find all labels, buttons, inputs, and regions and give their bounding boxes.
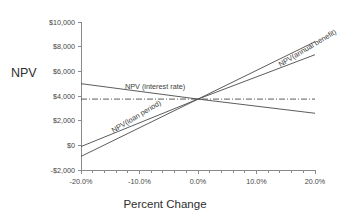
x-axis-tick-label: -20.0% (58, 177, 104, 186)
y-axis-tick-label: -$2,000 (20, 166, 75, 175)
series-line-2 (81, 84, 315, 114)
y-axis-tick-label: $8,000 (20, 42, 75, 51)
series-annotation-label: NPV (interest rate) (125, 82, 185, 91)
y-axis-tick-label: $4,000 (20, 92, 75, 101)
x-axis-tick-label: 0.0% (175, 177, 221, 186)
x-axis-tick-label: -10.0% (117, 177, 163, 186)
y-axis-title: NPV (11, 66, 37, 80)
chart-axes (78, 22, 315, 174)
x-axis-title: Percent Change (0, 198, 330, 210)
y-axis-tick-label: $0 (20, 141, 75, 150)
x-axis-tick-label: 20.0% (292, 177, 338, 186)
y-axis-tick-label: $2,000 (20, 116, 75, 125)
x-axis-tick-label: 10.0% (234, 177, 280, 186)
y-axis-tick-label: $10,000 (20, 18, 75, 27)
